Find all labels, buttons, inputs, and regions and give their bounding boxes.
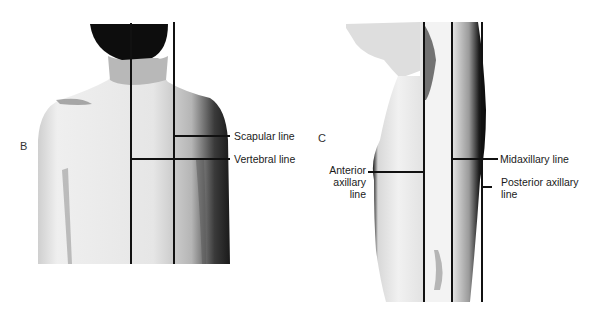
midaxillary-leader-line [452, 158, 498, 160]
anterior-axillary-label-2: axillary [324, 176, 366, 188]
midaxillary-line-label: Midaxillary line [500, 153, 569, 165]
posterior-axillary-label-1: Posterior axillary [501, 176, 579, 188]
panel-letter-c: C [318, 132, 326, 144]
midaxillary-vertical-line [451, 22, 453, 302]
anterior-axillary-label-3: line [324, 188, 366, 200]
posterior-axillary-leader-line [482, 186, 492, 188]
posterior-axillary-label-2: line [501, 188, 517, 200]
anterior-axillary-label-1: Anterior [324, 164, 366, 176]
anterior-axillary-vertical-line [423, 22, 425, 302]
anterior-axillary-leader-line [368, 171, 424, 173]
posterior-axillary-vertical-line [481, 22, 483, 302]
